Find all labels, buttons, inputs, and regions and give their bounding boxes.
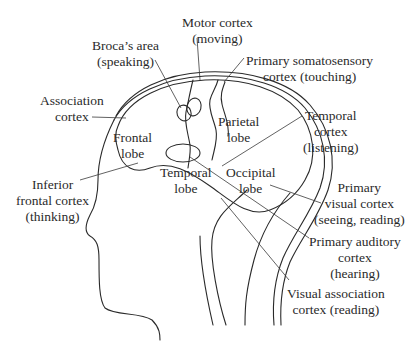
neck-line-rear <box>245 193 290 325</box>
association-cortex-line1: Association <box>40 93 104 109</box>
motor-cortex-label: Motor cortex (moving) <box>182 15 253 47</box>
brocas-area-line1: Broca’s area <box>92 38 159 54</box>
neck-line-front <box>200 236 213 325</box>
motor-strip <box>185 80 193 168</box>
motor-cortex-line1: Motor cortex <box>182 15 253 31</box>
leader-somatosensory <box>224 58 244 82</box>
inferior-frontal-label: Inferior frontal cortex (thinking) <box>16 177 89 225</box>
primary-auditory-line3: (hearing) <box>309 266 401 282</box>
inferior-frontal-line1: Inferior <box>16 177 89 193</box>
occipital-lobe-line1: Occipital <box>226 165 275 181</box>
brocas-area-shape <box>175 103 194 123</box>
neck-line-back <box>212 190 247 325</box>
temporal-cortex-line1: Temporal <box>303 108 359 124</box>
temporal-lobe-line2: lobe <box>160 181 212 197</box>
primary-visual-line1: Primary <box>314 180 405 196</box>
primary-somatosensory-line2: cortex (touching) <box>246 69 373 85</box>
visual-association-line2: cortex (reading) <box>287 302 385 318</box>
inferior-frontal-line2: frontal cortex <box>16 193 89 209</box>
association-cortex-label: Association cortex <box>40 93 104 125</box>
primary-auditory-line1: Primary auditory <box>309 234 401 250</box>
auditory-area-shape <box>166 144 200 162</box>
primary-auditory-label: Primary auditory cortex (hearing) <box>309 234 401 282</box>
frontal-lobe-line1: Frontal <box>113 130 152 146</box>
visual-association-line1: Visual association <box>287 286 385 302</box>
visual-association-label: Visual association cortex (reading) <box>287 286 385 318</box>
occipital-lobe-label: Occipital lobe <box>226 165 275 197</box>
primary-visual-label: Primary visual cortex (seeing, reading) <box>314 180 405 228</box>
brocas-area-line2: (speaking) <box>92 54 159 70</box>
primary-visual-line3: (seeing, reading) <box>314 212 405 228</box>
temporal-lobe-line1: Temporal <box>160 165 212 181</box>
frontal-lobe-line2: lobe <box>113 146 152 162</box>
inferior-frontal-line3: (thinking) <box>16 209 89 225</box>
frontal-lobe-label: Frontal lobe <box>113 130 152 162</box>
primary-somatosensory-label: Primary somatosensory cortex (touching) <box>246 53 373 85</box>
temporal-lobe-label: Temporal lobe <box>160 165 212 197</box>
brocas-area-label: Broca’s area (speaking) <box>92 38 159 70</box>
association-cortex-line2: cortex <box>40 109 104 125</box>
temporal-cortex-label: Temporal cortex (listening) <box>303 108 359 156</box>
occipital-lobe-line2: lobe <box>226 181 275 197</box>
motor-cortex-line2: (moving) <box>182 31 253 47</box>
brain-diagram: Frontal lobe Parietal lobe Temporal lobe… <box>0 0 419 345</box>
primary-somatosensory-line1: Primary somatosensory <box>246 53 373 69</box>
leader-visual-association <box>221 198 289 280</box>
temporal-cortex-line2: cortex <box>303 124 359 140</box>
temporal-cortex-line3: (listening) <box>303 140 359 156</box>
parietal-lobe-line2: lobe <box>218 130 259 146</box>
primary-visual-line2: visual cortex <box>314 196 405 212</box>
primary-auditory-line2: cortex <box>309 250 401 266</box>
parietal-lobe-label: Parietal lobe <box>218 114 259 146</box>
somatosensory-strip <box>210 80 218 160</box>
parietal-lobe-line1: Parietal <box>218 114 259 130</box>
